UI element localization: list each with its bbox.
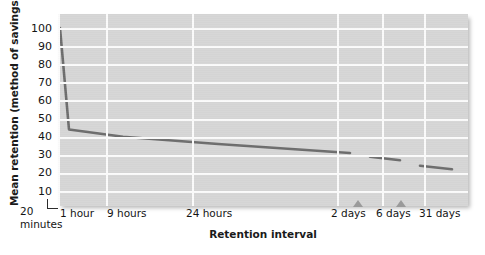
y-tick-40: 40	[26, 131, 52, 142]
y-axis-title: Mean retention (method of savings)	[8, 6, 20, 206]
gridline-h-30	[58, 155, 468, 157]
forgetting-curve-figure: Mean retention (method of savings) 10090…	[0, 0, 485, 255]
y-tick-100: 100	[26, 23, 52, 34]
gridline-h-100	[58, 28, 468, 30]
x-tick-2-days: 2 days	[331, 207, 366, 219]
x-axis-title: Retention interval	[58, 228, 468, 240]
y-tick-70: 70	[26, 77, 52, 88]
retention-curve	[58, 14, 468, 206]
x-tick-6-days: 6 days	[376, 207, 411, 219]
gridline-h-40	[58, 137, 468, 139]
gridline-v-3	[337, 14, 339, 206]
y-tick-50: 50	[26, 113, 52, 124]
gridline-h-80	[58, 64, 468, 66]
y-tick-80: 80	[26, 59, 52, 70]
axis-break-marker-1	[353, 200, 363, 207]
gridline-h-10	[58, 191, 468, 193]
gridline-v-5	[424, 14, 426, 206]
gridline-h-90	[58, 46, 468, 48]
y-tick-10: 10	[26, 186, 52, 197]
x-tick-9-hours: 9 hours	[107, 207, 147, 219]
gridline-v-0	[58, 14, 60, 206]
gridline-v-4	[382, 14, 384, 206]
y-tick-30: 30	[26, 149, 52, 160]
y-tick-90: 90	[26, 41, 52, 52]
plot-area	[58, 14, 468, 206]
gridline-h-20	[58, 173, 468, 175]
gridline-v-2	[192, 14, 194, 206]
x-tick-1-hour: 1 hour	[60, 207, 94, 219]
y-tick-20: 20	[26, 167, 52, 178]
axis-break-marker-2	[396, 200, 406, 207]
gridline-h-70	[58, 82, 468, 84]
gridline-v-1	[106, 14, 108, 206]
x-tick-31-days: 31 days	[419, 207, 460, 219]
gridline-h-60	[58, 100, 468, 102]
gridline-h-50	[58, 119, 468, 121]
x-tick-24-hours: 24 hours	[186, 207, 232, 219]
y-tick-60: 60	[26, 95, 52, 106]
curve-segment-6-days	[370, 157, 400, 161]
